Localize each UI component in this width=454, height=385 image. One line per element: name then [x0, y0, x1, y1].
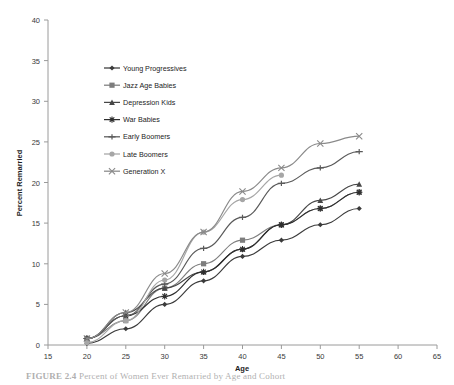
y-tick-label: 35	[32, 57, 40, 66]
y-tick-label: 10	[32, 260, 40, 269]
data-point-marker	[318, 222, 323, 227]
data-point-marker	[356, 149, 363, 154]
y-tick-label: 5	[36, 300, 40, 309]
figure-container: 0 5 10 15 20 25 30 35 40 15 20	[0, 0, 454, 385]
data-point-marker	[162, 277, 167, 282]
series-line	[87, 175, 282, 342]
series-line	[87, 192, 359, 338]
x-tick-label: 40	[238, 352, 246, 361]
x-tick-label: 65	[433, 352, 441, 361]
legend-item-war-babies[interactable]: War Babies	[104, 115, 160, 124]
legend-swatch-marker	[109, 151, 114, 156]
y-tick-label: 40	[32, 16, 40, 25]
legend-item-label: Late Boomers	[123, 150, 168, 159]
data-point-marker	[162, 302, 167, 307]
data-point-marker	[239, 246, 245, 252]
data-point-marker	[201, 261, 206, 266]
data-point-marker	[123, 318, 128, 323]
data-point-marker	[279, 238, 284, 243]
x-tick-label: 45	[277, 352, 285, 361]
legend-swatch-marker	[109, 65, 114, 70]
legend-item-label: Jazz Age Babies	[123, 81, 177, 90]
data-point-marker	[240, 197, 245, 202]
legend-item-jazz-age-babies[interactable]: Jazz Age Babies	[104, 81, 177, 90]
legend-item-label: Young Progressives	[123, 64, 187, 73]
data-point-marker	[240, 238, 245, 243]
legend-swatch-marker	[109, 83, 114, 88]
figure-caption-label: FIGURE 2.4	[26, 371, 77, 381]
x-tick-label: 20	[83, 352, 91, 361]
data-point-marker	[317, 165, 324, 170]
x-tick-label: 50	[316, 352, 324, 361]
legend-swatch-marker	[108, 134, 115, 139]
data-point-marker	[200, 269, 206, 275]
legend-item-label: Depression Kids	[123, 98, 176, 107]
legend-item-label: Generation X	[123, 167, 166, 176]
data-point-marker	[240, 254, 245, 259]
y-tick-label: 20	[32, 179, 40, 188]
x-tick-label: 35	[199, 352, 207, 361]
data-point-marker	[278, 222, 284, 228]
legend-item-label: War Babies	[123, 115, 160, 124]
legend-swatch-marker	[109, 116, 115, 122]
x-tick-label: 60	[394, 352, 402, 361]
legend-item-label: Early Boomers	[123, 132, 171, 141]
x-axis-tick-labels: 15 20 25 30 35 40 45 50 55 60 65	[44, 352, 441, 361]
data-point-marker	[162, 293, 168, 299]
chart-legend: Young ProgressivesJazz Age BabiesDepress…	[104, 64, 187, 176]
data-point-marker	[200, 246, 207, 251]
data-point-marker	[357, 206, 362, 211]
legend-item-late-boomers[interactable]: Late Boomers	[104, 150, 168, 159]
y-axis-tick-labels: 0 5 10 15 20 25 30 35 40	[32, 16, 40, 350]
data-point-marker	[317, 205, 323, 211]
series-young-progressives	[84, 206, 362, 346]
figure-caption-text: Percent of Women Ever Remarried by Age a…	[79, 371, 285, 381]
legend-item-depression-kids[interactable]: Depression Kids	[104, 98, 176, 107]
legend-item-generation-x[interactable]: Generation X	[104, 167, 166, 176]
y-tick-label: 0	[36, 341, 40, 350]
data-point-marker	[123, 326, 128, 331]
data-point-marker	[239, 215, 246, 220]
data-point-marker	[201, 278, 206, 283]
y-axis-title: Percent Remarried	[15, 149, 24, 216]
line-chart: 0 5 10 15 20 25 30 35 40 15 20	[0, 0, 454, 385]
y-tick-label: 30	[32, 97, 40, 106]
data-point-marker	[279, 173, 284, 178]
y-axis-ticks	[44, 20, 48, 345]
x-tick-label: 55	[355, 352, 363, 361]
x-tick-label: 25	[122, 352, 130, 361]
legend-item-early-boomers[interactable]: Early Boomers	[104, 132, 171, 141]
series-layer	[83, 133, 363, 346]
x-tick-label: 15	[44, 352, 52, 361]
figure-caption: FIGURE 2.4 Percent of Women Ever Remarri…	[26, 371, 446, 381]
y-tick-label: 25	[32, 138, 40, 147]
data-point-marker	[356, 189, 362, 195]
y-tick-label: 15	[32, 219, 40, 228]
legend-item-young-progressives[interactable]: Young Progressives	[104, 64, 187, 73]
data-point-marker	[278, 181, 285, 186]
series-line	[87, 192, 359, 338]
x-axis-ticks	[48, 345, 437, 349]
x-tick-label: 30	[161, 352, 169, 361]
